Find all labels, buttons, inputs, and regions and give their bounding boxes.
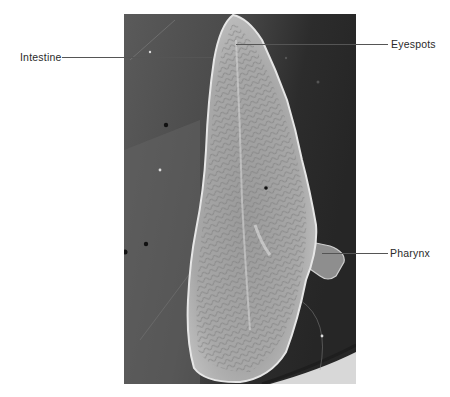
leader-line-pharynx [322, 253, 388, 254]
label-pharynx: Pharynx [390, 247, 430, 259]
leader-line-intestine [62, 57, 212, 58]
leader-line-eyespots [236, 44, 388, 45]
label-eyespots: Eyespots [391, 38, 436, 50]
labeled-figure: Intestine Eyespots Pharynx [0, 0, 450, 397]
planarian-photo [0, 0, 450, 397]
label-intestine: Intestine [20, 51, 62, 63]
